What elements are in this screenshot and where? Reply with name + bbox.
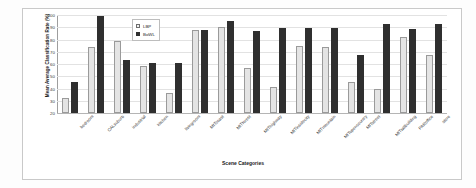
legend-swatch-bowl-icon — [136, 32, 140, 36]
x-tick-label-MITmountain: MITmountain — [315, 114, 336, 135]
x-tick-label-store: store — [441, 114, 451, 124]
bar-group — [244, 15, 261, 113]
bar-lbp-MIThighway — [244, 68, 252, 113]
bar-lbp-CALsuburb — [88, 47, 96, 113]
bar-bowl-MITopencountry — [331, 28, 339, 113]
y-tick-label-70: 70 — [50, 49, 55, 54]
bar-group — [400, 15, 417, 113]
bar-bowl-livingroom — [175, 63, 183, 113]
bar-bowl-industrial — [123, 60, 131, 113]
x-tick-label-PARoffice: PARoffice — [417, 114, 434, 131]
x-tick-label-livingroom: livingroom — [184, 114, 201, 131]
legend-label-lbp: LBP — [143, 24, 151, 29]
bar-lbp-MITmountain — [296, 46, 304, 113]
bar-group — [374, 15, 391, 113]
x-axis-tick-labels: bedroomCALsuburbindustrialkitchenlivingr… — [57, 114, 447, 160]
bar-lbp-kitchen — [140, 66, 148, 113]
x-tick-label-MITcoast: MITcoast — [209, 114, 225, 130]
bar-bowl-MIThighway — [253, 31, 261, 113]
bar-group — [426, 15, 443, 113]
bar-group — [62, 15, 79, 113]
bar-lbp-MITtallbuilding — [374, 89, 382, 114]
y-tick-label-90: 90 — [50, 25, 55, 30]
legend-item-lbp: LBP — [136, 22, 155, 30]
bar-bowl-PARoffice — [409, 29, 417, 113]
bar-bowl-MITstreet — [357, 55, 365, 113]
y-tick-label-40: 40 — [50, 86, 55, 91]
x-tick-label-CALsuburb: CALsuburb — [106, 114, 125, 133]
bar-lbp-MITopencountry — [322, 47, 330, 113]
bar-lbp-MITforest — [218, 27, 226, 113]
bar-group — [192, 15, 209, 113]
bar-group — [270, 15, 287, 113]
x-tick-label-MITforest: MITforest — [235, 114, 251, 130]
bar-bowl-MITforest — [227, 21, 235, 113]
bar-lbp-MITinsidecity — [270, 87, 278, 113]
y-tick-label-80: 80 — [50, 37, 55, 42]
bar-bowl-CALsuburb — [97, 16, 105, 113]
x-tick-label-MITinsidecity: MITinsidecity — [289, 114, 310, 135]
chart-frame: Mean Average Classification Rate (%) 203… — [22, 8, 462, 180]
y-tick-label-30: 30 — [50, 98, 55, 103]
bar-group — [296, 15, 313, 113]
bar-bowl-MITinsidecity — [279, 28, 287, 113]
plot-area: 2030405060708090100 — [57, 15, 447, 113]
y-tick-label-20: 20 — [50, 111, 55, 116]
bar-group — [114, 15, 131, 113]
legend-item-bowl: BoWL — [136, 30, 155, 38]
bar-lbp-livingroom — [166, 93, 174, 113]
chart-figure: Mean Average Classification Rate (%) 203… — [0, 0, 476, 188]
x-tick-label-industrial: industrial — [131, 114, 147, 130]
x-tick-label-kitchen: kitchen — [156, 114, 169, 127]
y-tick-label-100: 100 — [48, 13, 55, 18]
bar-bowl-bedroom — [71, 82, 79, 113]
x-axis-title: Scene Categories — [23, 160, 463, 166]
bar-group — [218, 15, 235, 113]
y-tick-label-60: 60 — [50, 62, 55, 67]
bar-group — [322, 15, 339, 113]
bar-lbp-store — [426, 55, 434, 113]
x-tick-label-MITtallbuilding: MITtallbuilding — [394, 114, 417, 137]
bar-lbp-bedroom — [62, 98, 70, 113]
chart-legend: LBP BoWL — [132, 19, 160, 41]
bar-lbp-PARoffice — [400, 37, 408, 113]
bar-group — [88, 15, 105, 113]
bar-group — [348, 15, 365, 113]
bar-bowl-MITtallbuilding — [383, 24, 391, 113]
x-tick-label-MIThighway: MIThighway — [263, 114, 283, 134]
bar-bowl-MITcoast — [201, 30, 209, 113]
bar-bowl-MITmountain — [305, 28, 313, 113]
y-tick-label-50: 50 — [50, 74, 55, 79]
bar-lbp-MITstreet — [348, 82, 356, 113]
legend-label-bowl: BoWL — [143, 32, 155, 37]
bar-group — [166, 15, 183, 113]
bar-bowl-store — [435, 24, 443, 113]
bar-lbp-industrial — [114, 41, 122, 113]
x-tick-label-bedroom: bedroom — [79, 114, 95, 130]
legend-swatch-lbp-icon — [136, 24, 140, 28]
bar-bowl-kitchen — [149, 63, 157, 113]
bar-lbp-MITcoast — [192, 30, 200, 113]
